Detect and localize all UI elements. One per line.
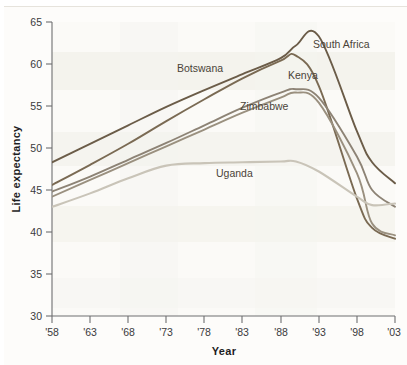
x-tick-label-93: '93 (312, 326, 326, 338)
y-tick-label-45: 45 (30, 184, 42, 196)
y-tick-label-50: 50 (30, 142, 42, 154)
x-axis: '58 '63 '68 '73 '78 '83 '88 '93 '98 '03 (45, 316, 401, 338)
x-tick-label-03: '03 (387, 326, 401, 338)
x-tick-label-83: '83 (235, 326, 249, 338)
y-tick-label-40: 40 (30, 226, 42, 238)
x-tick-label-73: '73 (159, 326, 173, 338)
y-tick-label-55: 55 (30, 100, 42, 112)
series-label-south-africa: South Africa (313, 38, 370, 50)
y-tick-label-35: 35 (30, 268, 42, 280)
x-tick-label-88: '88 (274, 326, 288, 338)
chart-figure: 65 60 55 50 45 40 35 30 ' (0, 0, 407, 365)
series-label-zimbabwe: Zimbabwe (240, 100, 289, 112)
x-tick-label-63: '63 (83, 326, 97, 338)
y-tick-label-30: 30 (30, 310, 42, 322)
y-tick-label-60: 60 (30, 58, 42, 70)
x-tick-label-98: '98 (350, 326, 364, 338)
x-axis-title: Year (212, 345, 237, 357)
y-axis-title: Life expectancy (10, 125, 22, 213)
series-label-uganda: Uganda (216, 167, 253, 179)
line-chart: 65 60 55 50 45 40 35 30 ' (0, 0, 407, 365)
series-label-kenya: Kenya (288, 69, 318, 81)
x-tick-label-58: '58 (45, 326, 59, 338)
y-axis: 65 60 55 50 45 40 35 30 (30, 16, 52, 322)
x-tick-label-78: '78 (197, 326, 211, 338)
y-tick-label-65: 65 (30, 16, 42, 28)
x-tick-label-68: '68 (121, 326, 135, 338)
series-label-botswana: Botswana (177, 62, 223, 74)
